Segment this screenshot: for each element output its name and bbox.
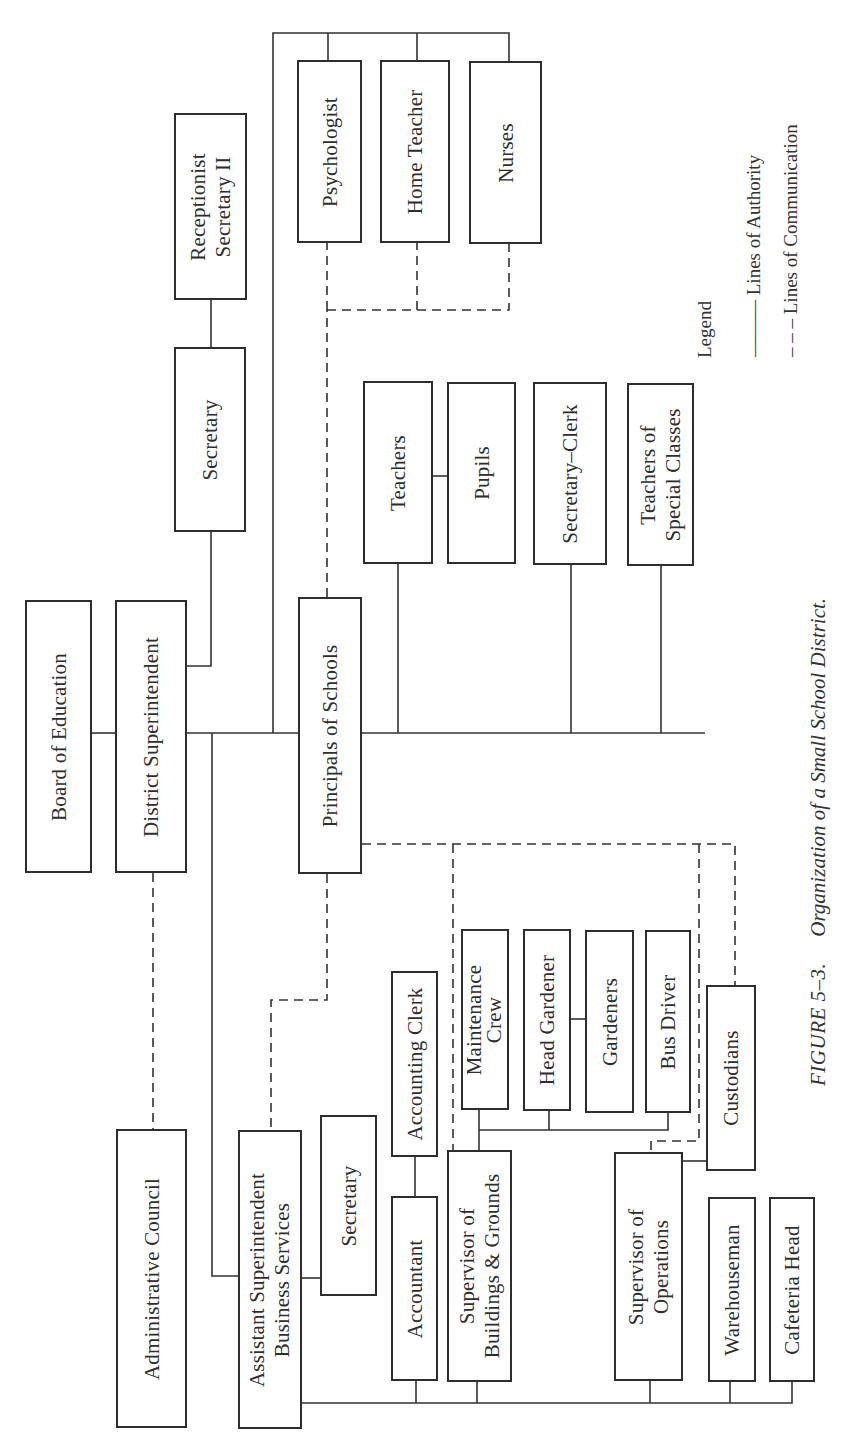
legend-label: Lines of Communication	[780, 124, 801, 314]
node-gardeners: Gardeners	[585, 930, 634, 1113]
node-label: Pupils	[469, 446, 494, 500]
node-label: Secretary	[198, 399, 223, 480]
figure-label: FIGURE 5–3.	[806, 963, 830, 1086]
node-label: Receptionist	[186, 153, 211, 260]
node-teachers: Teachers	[363, 381, 433, 564]
node-label: Crew	[485, 964, 505, 1075]
node-board-of-education: Board of Education	[25, 600, 92, 873]
node-label: Accounting Clerk	[402, 987, 427, 1140]
node-custodians: Custodians	[706, 985, 756, 1171]
node-label: Teachers of	[636, 408, 661, 541]
node-pupils: Pupils	[447, 382, 516, 564]
node-secretary-clerk: Secretary–Clerk	[533, 382, 607, 565]
node-supervisor-buildings-grounds: Supervisor ofBuildings & Grounds	[447, 1150, 512, 1382]
node-bus-driver: Bus Driver	[645, 930, 691, 1113]
node-principals-of-schools: Principals of Schools	[298, 597, 362, 874]
node-label: Custodians	[719, 1030, 744, 1125]
legend-item-authority: ——— Lines of Authority	[743, 155, 765, 357]
legend-label: Lines of Authority	[743, 155, 764, 295]
node-label: Warehouseman	[720, 1224, 745, 1355]
node-label: Teachers	[386, 435, 411, 511]
node-label: District Superintendent	[139, 637, 164, 837]
solid-line-icon: ———	[743, 300, 764, 357]
node-label: Principals of Schools	[318, 644, 343, 827]
node-supervisor-operations: Supervisor ofOperations	[614, 1152, 683, 1381]
node-label: Home Teacher	[403, 89, 428, 214]
node-psychologist: Psychologist	[297, 60, 362, 243]
node-label: Supervisor of	[455, 1174, 480, 1359]
node-district-superintendent: District Superintendent	[115, 600, 187, 873]
node-label: Head Gardener	[535, 955, 560, 1085]
node-label: Gardeners	[597, 977, 622, 1065]
node-label: Cafeteria Head	[780, 1225, 805, 1354]
node-label: Supervisor of	[624, 1208, 649, 1324]
legend-title: Legend	[694, 301, 716, 358]
figure-title: Organization of a Small School District.	[806, 598, 830, 937]
node-label: Special Classes	[661, 408, 686, 541]
node-nurses: Nurses	[469, 61, 542, 244]
node-label: Secretary II	[211, 153, 236, 260]
legend-item-communication: – – – Lines of Communication	[780, 124, 802, 357]
node-head-gardener: Head Gardener	[523, 929, 571, 1111]
node-label: Board of Education	[46, 652, 71, 820]
node-label: Bus Driver	[656, 974, 681, 1069]
dashed-line-icon: – – –	[780, 319, 801, 357]
node-receptionist-secretary-ii: ReceptionistSecretary II	[174, 113, 247, 300]
node-label: Secretary–Clerk	[558, 404, 583, 543]
node-accounting-clerk: Accounting Clerk	[391, 971, 438, 1157]
node-assistant-superintendent: Assistant SuperintendentBusiness Service…	[238, 1130, 302, 1429]
node-label: Business Services	[270, 1172, 295, 1386]
node-label: Accountant	[402, 1239, 427, 1338]
node-warehouseman: Warehouseman	[708, 1197, 756, 1382]
node-cafeteria-head: Cafeteria Head	[769, 1197, 815, 1382]
node-secretary-superintendent: Secretary	[174, 347, 246, 532]
node-label: Secretary	[336, 1165, 361, 1246]
node-label: Assistant Superintendent	[245, 1172, 270, 1386]
node-label: Buildings & Grounds	[480, 1174, 505, 1359]
node-label: Nurses	[493, 123, 518, 183]
node-label: Administrative Council	[139, 1177, 164, 1379]
node-label: Psychologist	[317, 97, 342, 207]
node-home-teacher: Home Teacher	[380, 60, 450, 243]
node-label: Operations	[649, 1208, 674, 1324]
node-teachers-special-classes: Teachers ofSpecial Classes	[627, 383, 694, 566]
node-secretary-business: Secretary	[320, 1115, 377, 1296]
node-administrative-council: Administrative Council	[116, 1129, 187, 1428]
node-accountant: Accountant	[391, 1196, 438, 1381]
figure-caption: FIGURE 5–3.Organization of a Small Schoo…	[806, 598, 831, 1086]
node-maintenance-crew: MaintenanceCrew	[461, 929, 509, 1110]
